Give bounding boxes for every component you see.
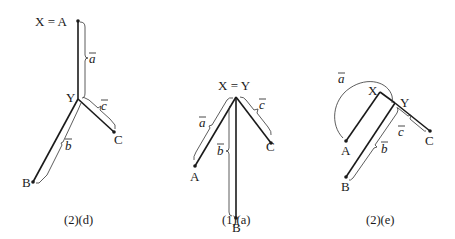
caption-2e: (2)(e) bbox=[366, 213, 394, 227]
arc-a bbox=[335, 82, 393, 138]
brace-b bbox=[226, 105, 232, 216]
label-c: C bbox=[425, 133, 434, 148]
segment-label-b: b bbox=[65, 138, 72, 153]
brace-c bbox=[83, 97, 115, 129]
brace-b bbox=[349, 107, 398, 180]
label-c: C bbox=[114, 132, 123, 147]
label-c: C bbox=[266, 139, 275, 154]
label-x-equals-a: X = A bbox=[35, 14, 68, 29]
label-x-equals-y: X = Y bbox=[218, 78, 251, 93]
caption-2d: (2)(d) bbox=[64, 213, 93, 227]
label-a: A bbox=[341, 143, 351, 158]
label-x: X bbox=[368, 83, 378, 98]
panel-1a: X = Y A B C a b c (1)(a) bbox=[190, 78, 275, 235]
edge-c bbox=[236, 97, 271, 143]
segment-label-b: b bbox=[381, 141, 388, 156]
brace-b bbox=[36, 103, 81, 183]
label-a: A bbox=[190, 169, 200, 184]
edge-b bbox=[346, 103, 395, 177]
edge-a bbox=[195, 97, 236, 166]
brace-a bbox=[80, 22, 88, 98]
label-y: Y bbox=[400, 95, 410, 110]
brace-c bbox=[240, 97, 271, 135]
panel-2d: X = A Y C B a c b (2)(d) bbox=[22, 14, 123, 227]
caption-1a: (1)(a) bbox=[222, 213, 250, 227]
node-B bbox=[31, 180, 35, 184]
label-b: B bbox=[341, 179, 350, 194]
segment-label-b: b bbox=[217, 143, 224, 158]
node-A bbox=[193, 164, 197, 168]
panel-2e: a X Y A B C b c (2)(e) bbox=[335, 71, 434, 227]
edge-c bbox=[78, 99, 114, 132]
node-A bbox=[76, 19, 80, 23]
label-b: B bbox=[22, 175, 31, 190]
label-y: Y bbox=[66, 90, 76, 105]
